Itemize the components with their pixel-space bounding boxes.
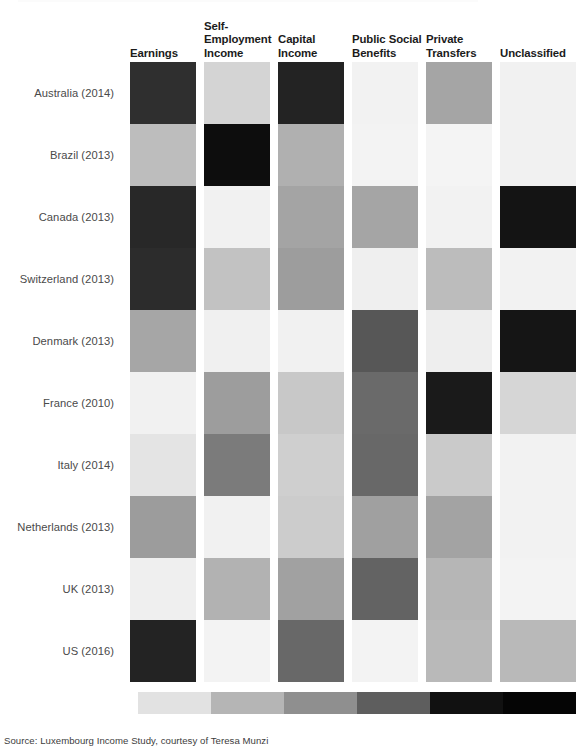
column-header: Private Transfers [426,33,476,60]
column-header: Public Social Benefits [352,33,422,60]
heatmap-cell [352,310,418,372]
heatmap-cell [204,124,270,186]
heatmap-cell [278,62,344,124]
heatmap-row [130,558,576,620]
heatmap-cell [204,496,270,558]
heatmap-cell [426,186,492,248]
column-header: Capital Income [278,33,317,60]
heatmap-cell [352,434,418,496]
row-label: Brazil (2013) [0,124,122,186]
heatmap-cell [500,620,576,682]
heatmap-cell [426,124,492,186]
heatmap-cell [130,124,196,186]
heatmap-cell [426,62,492,124]
heatmap-cell [278,620,344,682]
heatmap-row [130,248,576,310]
heatmap-cell [352,62,418,124]
heatmap-cell [500,372,576,434]
row-label-column: Australia (2014)Brazil (2013)Canada (201… [0,62,122,682]
heatmap-grid [130,62,576,682]
heatmap-cell [352,620,418,682]
heatmap-cell [426,310,492,372]
heatmap-cell [204,620,270,682]
heatmap-cell [278,434,344,496]
heatmap-row [130,620,576,682]
heatmap-cell [500,248,576,310]
heatmap-cell [500,496,576,558]
heatmap-cell [130,248,196,310]
crop-artifact [18,0,478,2]
heatmap-row [130,434,576,496]
column-header: Unclassified [500,47,566,60]
heatmap-row [130,186,576,248]
row-label: Netherlands (2013) [0,496,122,558]
heatmap-cell [352,558,418,620]
row-label: Australia (2014) [0,62,122,124]
colorbar-band [284,692,357,714]
row-label: US (2016) [0,620,122,682]
heatmap-cell [204,186,270,248]
heatmap-cell [130,372,196,434]
heatmap-cell [500,434,576,496]
column-header: Self- Employment Income [204,20,271,60]
heatmap-figure: EarningsSelf- Employment IncomeCapital I… [0,0,576,754]
colorbar [138,692,576,714]
column-header-row: EarningsSelf- Employment IncomeCapital I… [130,8,576,60]
heatmap-cell [352,496,418,558]
heatmap-cell [278,310,344,372]
heatmap-cell [352,186,418,248]
heatmap-cell [426,248,492,310]
heatmap-cell [130,496,196,558]
heatmap-cell [500,62,576,124]
colorbar-band [430,692,503,714]
heatmap-cell [204,62,270,124]
heatmap-cell [426,372,492,434]
heatmap-cell [130,62,196,124]
heatmap-cell [204,248,270,310]
colorbar-band [503,692,576,714]
heatmap-cell [500,186,576,248]
heatmap-cell [426,620,492,682]
heatmap-cell [352,248,418,310]
row-label: Italy (2014) [0,434,122,496]
heatmap-cell [130,620,196,682]
heatmap-cell [204,310,270,372]
colorbar-band [211,692,284,714]
heatmap-cell [204,558,270,620]
heatmap-cell [426,496,492,558]
heatmap-cell [352,124,418,186]
heatmap-row [130,62,576,124]
heatmap-cell [500,124,576,186]
heatmap-cell [278,496,344,558]
heatmap-cell [130,310,196,372]
heatmap-cell [352,372,418,434]
heatmap-row [130,372,576,434]
heatmap-cell [426,434,492,496]
heatmap-cell [278,124,344,186]
heatmap-row [130,124,576,186]
row-label: France (2010) [0,372,122,434]
heatmap-cell [204,372,270,434]
heatmap-row [130,496,576,558]
heatmap-cell [204,434,270,496]
heatmap-cell [500,558,576,620]
row-label: Switzerland (2013) [0,248,122,310]
heatmap-cell [130,186,196,248]
colorbar-band [357,692,430,714]
colorbar-band [138,692,211,714]
heatmap-cell [130,434,196,496]
heatmap-cell [278,558,344,620]
heatmap-row [130,310,576,372]
heatmap-cell [130,558,196,620]
heatmap-cell [278,248,344,310]
row-label: UK (2013) [0,558,122,620]
column-header: Earnings [130,47,178,60]
heatmap-cell [278,372,344,434]
heatmap-cell [278,186,344,248]
row-label: Canada (2013) [0,186,122,248]
heatmap-cell [426,558,492,620]
row-label: Denmark (2013) [0,310,122,372]
heatmap-cell [500,310,576,372]
source-note: Source: Luxembourg Income Study, courtes… [4,735,268,746]
